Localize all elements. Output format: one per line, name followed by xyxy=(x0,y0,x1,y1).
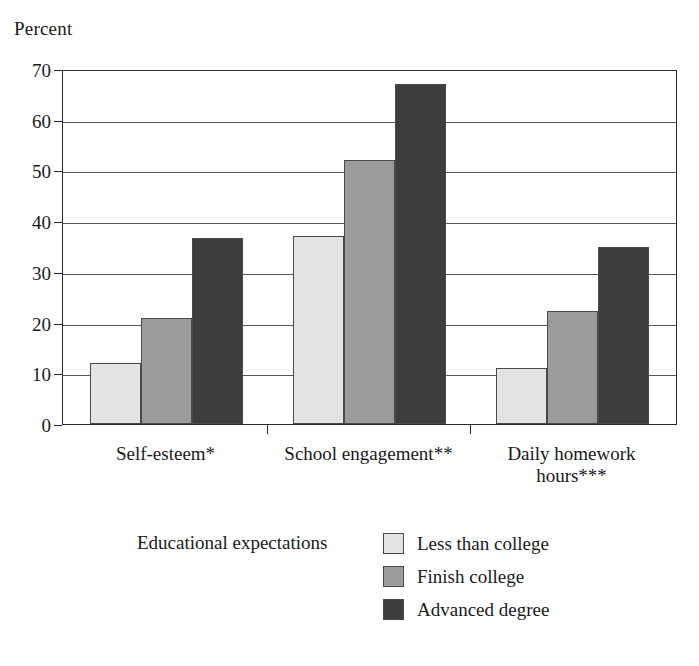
x-tick-mark xyxy=(267,425,268,434)
legend-item[interactable]: Finish college xyxy=(383,560,549,593)
y-tick-mark xyxy=(54,171,62,172)
bar xyxy=(141,318,192,425)
y-tick-label: 50 xyxy=(7,162,51,181)
y-tick-mark xyxy=(54,374,62,375)
category-label: Daily homework hours*** xyxy=(462,443,682,488)
bar xyxy=(293,236,344,424)
legend-item[interactable]: Advanced degree xyxy=(383,593,549,626)
y-tick-mark xyxy=(54,273,62,274)
y-tick-label: 70 xyxy=(7,61,51,80)
bar xyxy=(547,311,598,424)
bar xyxy=(192,238,243,424)
bar xyxy=(496,368,547,424)
y-tick-label: 60 xyxy=(7,111,51,130)
y-tick-mark xyxy=(54,425,62,426)
legend-title: Educational expectations xyxy=(137,532,327,554)
y-tick-label: 40 xyxy=(7,213,51,232)
y-tick-mark xyxy=(54,222,62,223)
y-axis-title: Percent xyxy=(14,18,72,40)
x-tick-mark xyxy=(470,425,471,434)
y-tick-label: 30 xyxy=(7,263,51,282)
category-label: School engagement** xyxy=(259,443,479,465)
legend-label: Advanced degree xyxy=(417,599,549,621)
y-tick-label: 10 xyxy=(7,365,51,384)
y-tick-label: 20 xyxy=(7,314,51,333)
legend-label: Less than college xyxy=(417,533,549,555)
legend: Less than collegeFinish collegeAdvanced … xyxy=(383,527,549,626)
y-tick-mark xyxy=(54,121,62,122)
legend-swatch xyxy=(383,533,404,554)
bar xyxy=(395,84,446,424)
legend-swatch xyxy=(383,566,404,587)
bar xyxy=(598,247,649,425)
bar xyxy=(90,363,141,424)
bar xyxy=(344,160,395,424)
plot-area xyxy=(62,70,677,425)
y-tick-mark xyxy=(54,324,62,325)
category-label: Self-esteem* xyxy=(56,443,276,465)
legend-item[interactable]: Less than college xyxy=(383,527,549,560)
legend-swatch xyxy=(383,599,404,620)
y-tick-label: 0 xyxy=(7,416,51,435)
legend-label: Finish college xyxy=(417,566,524,588)
bar-series-container xyxy=(63,71,676,424)
y-tick-mark xyxy=(54,70,62,71)
